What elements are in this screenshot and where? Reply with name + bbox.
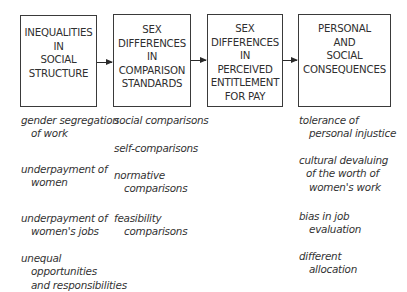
list-item: cultural devaluing of the worth of women…: [299, 154, 388, 194]
list-item: bias in job evaluation: [299, 210, 361, 237]
box-line: SEX: [208, 22, 282, 36]
list-item: underpayment of women's jobs: [21, 212, 107, 239]
box-line: SOCIAL: [21, 53, 96, 67]
box-line: IN: [114, 50, 190, 64]
arrow-right-icon: [97, 62, 112, 63]
box-line: COMPARISON: [114, 64, 190, 78]
box-inequalities-in-social-structure: INEQUALITIES IN SOCIAL STRUCTURE: [20, 15, 97, 107]
box-line: DIFFERENCES: [114, 37, 190, 51]
list-item: different allocation: [299, 250, 357, 277]
box-line: PERSONAL: [299, 22, 390, 36]
list-item: unequal opportunities and responsibiliti…: [21, 252, 127, 292]
box-line: STRUCTURE: [21, 67, 96, 81]
box-sex-differences-in-perceived-entitlement: SEX DIFFERENCES IN PERCEIVED ENTITLEMENT…: [207, 14, 283, 107]
list-item: feasibility comparisons: [114, 212, 187, 239]
box-line: INEQUALITIES: [21, 26, 96, 40]
box-personal-and-social-consequences: PERSONAL AND SOCIAL CONSEQUENCES: [298, 14, 391, 107]
box-sex-differences-in-comparison-standards: SEX DIFFERENCES IN COMPARISON STANDARDS: [113, 14, 191, 107]
list-item: gender segregation of work: [21, 114, 119, 141]
list-item: normative comparisons: [114, 169, 187, 196]
box-line: PERCEIVED: [208, 63, 282, 77]
box-line: IN: [21, 40, 96, 54]
list-item: social comparisons: [114, 114, 209, 127]
box-line: IN: [208, 49, 282, 63]
box-line: ENTITLEMENT: [208, 76, 282, 90]
list-item: self-comparisons: [114, 142, 198, 155]
box-line: CONSEQUENCES: [299, 63, 390, 77]
list-consequences: tolerance of personal injustice cultural…: [299, 114, 407, 284]
box-line: AND: [299, 36, 390, 50]
box-line: FOR PAY: [208, 90, 282, 104]
box-line: SOCIAL: [299, 49, 390, 63]
box-line: STANDARDS: [114, 77, 190, 91]
box-line: SEX: [114, 23, 190, 37]
list-comparison-standards: social comparisons self-comparisons norm…: [114, 114, 234, 234]
arrow-right-icon: [283, 60, 297, 61]
box-line: DIFFERENCES: [208, 36, 282, 50]
list-item: tolerance of personal injustice: [299, 114, 396, 141]
arrow-right-icon: [191, 60, 206, 61]
list-item: underpayment of women: [21, 163, 107, 190]
